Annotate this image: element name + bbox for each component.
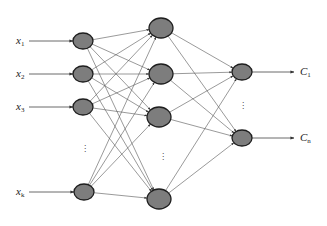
output-neuron — [232, 130, 252, 146]
input-neuron — [73, 66, 93, 82]
connection-edge — [89, 113, 151, 191]
input-neuron — [73, 33, 93, 49]
input-label: xk — [15, 185, 25, 199]
connection-edge — [87, 48, 153, 190]
connection-edge — [91, 124, 150, 186]
output-ellipsis: ⋮ — [239, 101, 247, 110]
hidden-neuron — [149, 64, 173, 84]
connection-edge — [170, 80, 234, 133]
input-label: x3 — [15, 100, 25, 114]
output-label: C1 — [300, 65, 311, 79]
connection-edge — [169, 143, 234, 193]
neuron-nodes — [73, 18, 252, 209]
connection-edge — [90, 35, 153, 101]
hidden-neuron — [147, 107, 171, 127]
hidden-neuron — [149, 18, 173, 38]
connection-edge — [172, 33, 234, 68]
neural-network-diagram: x1x2x3xkC1Cn ⋮ ⋮ ⋮ — [0, 0, 327, 226]
connection-edge — [93, 108, 147, 116]
connection-edge — [89, 82, 154, 185]
connection-edge — [170, 76, 234, 112]
connection-edge — [88, 37, 156, 185]
input-label: x1 — [15, 34, 25, 48]
connection-edge — [92, 44, 150, 70]
connection-edge — [92, 78, 149, 112]
output-label: Cn — [300, 131, 311, 145]
output-neuron — [232, 64, 252, 80]
input-neuron — [73, 99, 93, 115]
input-label: x2 — [15, 67, 25, 81]
connection-edge — [94, 193, 147, 198]
connection-edge — [166, 79, 237, 191]
hidden-neuron — [147, 189, 171, 209]
hidden-ellipsis: ⋮ — [159, 152, 167, 161]
input-neuron — [74, 184, 94, 200]
input-ellipsis: ⋮ — [81, 144, 89, 153]
connection-edge — [93, 30, 149, 40]
connection-edge — [173, 72, 232, 74]
